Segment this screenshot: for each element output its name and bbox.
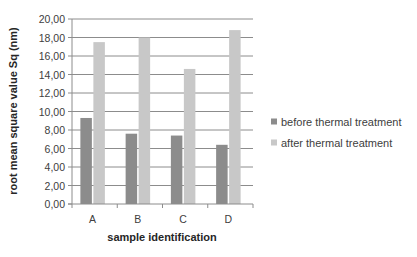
- y-tick-label: 14,00: [39, 69, 65, 81]
- y-tick-label: 10,00: [39, 106, 65, 118]
- bar-D-before: [216, 145, 228, 204]
- x-axis: ABCD: [68, 204, 253, 225]
- y-tick-label: 20,00: [39, 13, 65, 25]
- bar-chart: 0,002,004,006,008,0010,0012,0014,0016,00…: [0, 0, 417, 257]
- y-axis-title: root mean square value Sq (nm): [7, 27, 19, 195]
- legend: before thermal treatmentafter thermal tr…: [271, 116, 401, 149]
- y-tick-label: 8,00: [45, 124, 66, 136]
- x-axis-title: sample identification: [107, 231, 217, 243]
- legend-marker-before: [271, 119, 277, 125]
- bar-C-after: [184, 69, 196, 204]
- legend-label: before thermal treatment: [281, 116, 401, 128]
- y-tick-label: 18,00: [39, 32, 65, 44]
- bar-C-before: [171, 136, 183, 204]
- y-tick-label: 12,00: [39, 87, 65, 99]
- y-tick-label: 6,00: [45, 143, 66, 155]
- y-tick-label: 2,00: [45, 180, 66, 192]
- x-tick-label: B: [134, 213, 141, 225]
- x-tick-label: A: [89, 213, 96, 225]
- legend-label: after thermal treatment: [281, 137, 392, 149]
- bar-B-after: [139, 38, 151, 205]
- y-tick-label: 4,00: [45, 161, 66, 173]
- bar-B-before: [126, 134, 138, 204]
- legend-marker-after: [271, 140, 277, 146]
- bar-D-after: [229, 30, 241, 204]
- y-axis-ticks: 0,002,004,006,008,0010,0012,0014,0016,00…: [39, 13, 72, 210]
- x-tick-label: D: [225, 213, 233, 225]
- y-tick-label: 0,00: [45, 198, 66, 210]
- bar-A-after: [93, 42, 105, 204]
- bar-A-before: [80, 118, 92, 204]
- x-tick-label: C: [179, 213, 187, 225]
- y-tick-label: 16,00: [39, 50, 65, 62]
